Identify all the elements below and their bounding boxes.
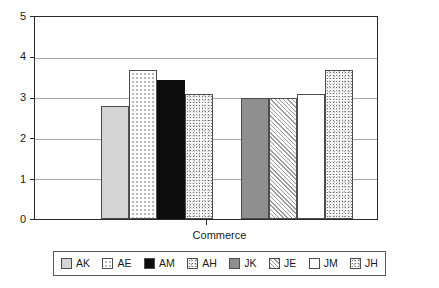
- x-axis-label: Commerce: [0, 229, 439, 241]
- legend-label-jh: JH: [365, 258, 378, 269]
- bar-AE[interactable]: [129, 70, 157, 219]
- legend-label-jm: JM: [324, 258, 338, 269]
- y-tick-mark-0: [30, 219, 34, 220]
- legend-label-jk: JK: [244, 258, 256, 269]
- y-tick-mark-1: [30, 179, 34, 180]
- bar-JM[interactable]: [297, 94, 325, 219]
- legend-label-je: JE: [284, 258, 296, 269]
- legend-item-ak[interactable]: AK: [61, 258, 90, 269]
- legend-swatch-ak-icon: [61, 258, 72, 269]
- legend-swatch-jk-icon: [229, 258, 240, 269]
- bar-JE[interactable]: [269, 98, 297, 219]
- legend-item-jk[interactable]: JK: [229, 258, 256, 269]
- legend-swatch-jm-icon: [309, 258, 320, 269]
- y-tick-label-3: 3: [4, 92, 26, 103]
- legend-swatch-am-icon: [144, 258, 155, 269]
- y-tick-mark-4: [30, 57, 34, 58]
- y-tick-label-2: 2: [4, 133, 26, 144]
- legend-label-ae: AE: [117, 258, 131, 269]
- legend-item-am[interactable]: AM: [144, 258, 175, 269]
- legend-label-ah: AH: [202, 258, 217, 269]
- legend-swatch-ae-icon: [102, 258, 113, 269]
- legend-swatch-ah-icon: [187, 258, 198, 269]
- bar-JH[interactable]: [325, 70, 353, 219]
- bar-JK[interactable]: [241, 98, 269, 219]
- y-tick-mark-5: [30, 16, 34, 17]
- x-tick-mark-commerce: [206, 220, 207, 225]
- bar-AH[interactable]: [185, 94, 213, 219]
- legend-swatch-je-icon: [269, 258, 280, 269]
- bars-layer: [35, 17, 377, 219]
- legend-label-am: AM: [159, 258, 175, 269]
- y-tick-mark-2: [30, 138, 34, 139]
- legend-label-ak: AK: [76, 258, 90, 269]
- legend-item-jh[interactable]: JH: [350, 258, 378, 269]
- y-tick-label-0: 0: [4, 214, 26, 225]
- legend: AK AE AM AH JK JE JM JH: [53, 251, 386, 276]
- legend-item-je[interactable]: JE: [269, 258, 296, 269]
- legend-item-ae[interactable]: AE: [102, 258, 131, 269]
- y-tick-label-4: 4: [4, 51, 26, 62]
- legend-swatch-jh-icon: [350, 258, 361, 269]
- y-tick-label-5: 5: [4, 11, 26, 22]
- bar-AK[interactable]: [101, 106, 129, 219]
- legend-item-jm[interactable]: JM: [309, 258, 338, 269]
- y-tick-mark-3: [30, 98, 34, 99]
- legend-item-ah[interactable]: AH: [187, 258, 217, 269]
- bar-AM[interactable]: [157, 80, 185, 219]
- y-tick-label-1: 1: [4, 174, 26, 185]
- bar-chart: 5 4 3 2 1 0 Commerce AK AE AM AH: [0, 0, 439, 288]
